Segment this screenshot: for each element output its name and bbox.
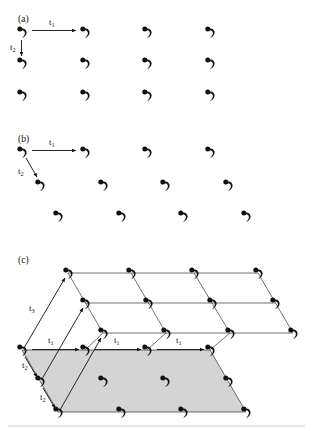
comma-spiral-motif bbox=[160, 180, 169, 192]
comma-spiral-motif bbox=[98, 180, 107, 192]
comma-spiral-motif bbox=[80, 27, 89, 39]
comma-spiral-motif bbox=[205, 58, 214, 70]
t3-arrow bbox=[24, 278, 65, 348]
t2-label-c-1: t2 bbox=[22, 360, 28, 371]
comma-spiral-motif bbox=[241, 211, 250, 223]
comma-spiral-motif bbox=[80, 90, 89, 102]
panel-a-label: (a) bbox=[18, 14, 29, 25]
panel-c: (c) bbox=[17, 255, 297, 418]
panel-b-vector-t2: t2 bbox=[18, 158, 37, 177]
comma-spiral-motif bbox=[205, 27, 214, 39]
comma-spiral-motif bbox=[223, 180, 232, 192]
comma-spiral-motif bbox=[178, 211, 187, 223]
comma-spiral-motif bbox=[116, 211, 125, 223]
panel-b-motifs bbox=[17, 147, 250, 223]
figure-canvas: (a) t1 t2 bbox=[0, 0, 313, 431]
comma-spiral-motif bbox=[142, 27, 151, 39]
comma-spiral-motif bbox=[80, 58, 89, 70]
comma-spiral-motif bbox=[142, 147, 151, 159]
panel-a-motifs bbox=[17, 27, 214, 102]
t1-label-c-1: t1 bbox=[48, 335, 54, 346]
t1-label-b: t1 bbox=[49, 137, 55, 148]
comma-spiral-motif bbox=[35, 180, 44, 192]
comma-spiral-motif bbox=[53, 211, 62, 223]
comma-spiral-motif bbox=[142, 58, 151, 70]
comma-spiral-motif bbox=[17, 27, 26, 39]
t2-label-b: t2 bbox=[18, 166, 24, 177]
lattice-figure: (a) t1 t2 bbox=[0, 0, 313, 431]
t2-label-c-2: t2 bbox=[40, 392, 46, 403]
panel-c-vectors-t1: t1 t1 t1 bbox=[32, 335, 204, 350]
panel-b-label: (b) bbox=[18, 134, 29, 145]
comma-spiral-motif bbox=[80, 147, 89, 159]
t2-arrow-b bbox=[26, 158, 37, 177]
comma-spiral-motif bbox=[142, 90, 151, 102]
comma-spiral-motif bbox=[205, 147, 214, 159]
panel-b: (b) t1 t2 bbox=[17, 134, 250, 222]
panel-c-vector-t3: t3 bbox=[24, 278, 65, 348]
t2-label-a: t2 bbox=[10, 42, 16, 53]
comma-spiral-motif bbox=[17, 58, 26, 70]
panel-a: (a) t1 t2 bbox=[10, 14, 215, 101]
comma-spiral-motif bbox=[17, 147, 26, 159]
upper-layer-horizontal-lines bbox=[68, 273, 293, 333]
panel-a-vector-t1: t1 bbox=[32, 17, 76, 31]
panel-a-vector-t2: t2 bbox=[10, 40, 22, 56]
t1-label-c-2: t1 bbox=[114, 335, 120, 346]
panel-c-label: (c) bbox=[18, 255, 29, 266]
panel-b-vector-t1: t1 bbox=[32, 137, 76, 151]
base-plane bbox=[22, 350, 246, 412]
comma-spiral-motif bbox=[17, 90, 26, 102]
comma-spiral-motif bbox=[205, 90, 214, 102]
t1-label-c-3: t1 bbox=[176, 335, 182, 346]
t1-label-a: t1 bbox=[49, 17, 55, 28]
t3-label: t3 bbox=[29, 303, 35, 314]
